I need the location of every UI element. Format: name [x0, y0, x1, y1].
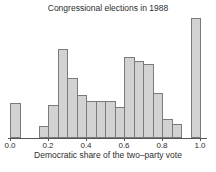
x-axis-label: Democratic share of the two–party vote — [0, 150, 216, 160]
x-axis-line — [8, 138, 207, 139]
x-tick-label: 0.4 — [76, 141, 96, 150]
x-tick-label: 0.0 — [0, 141, 20, 150]
x-tick-label: 1.0 — [190, 141, 210, 150]
x-tick-label: 0.2 — [38, 141, 58, 150]
x-tick-label: 0.6 — [114, 141, 134, 150]
histogram-bar — [10, 103, 21, 138]
plot-area — [0, 0, 216, 172]
histogram-bar — [191, 18, 202, 138]
histogram-figure: Congressional elections in 1988 0.00.20.… — [0, 0, 216, 172]
x-tick-label: 0.8 — [152, 141, 172, 150]
histogram-bar — [172, 124, 183, 138]
